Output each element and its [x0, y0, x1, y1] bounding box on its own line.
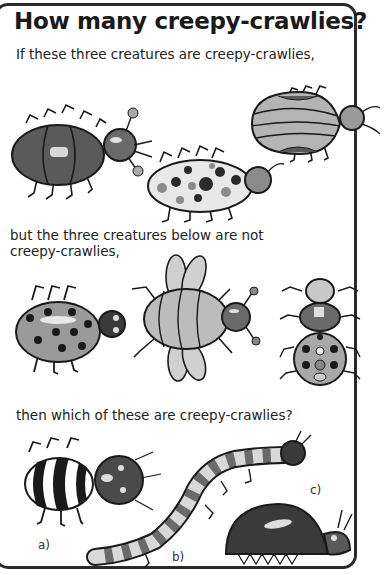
intro-text: If these three creatures are creepy-craw…: [16, 46, 315, 63]
not-text-line2: creepy-crawlies,: [10, 243, 120, 260]
creature-striped-beetle: [8, 95, 158, 205]
option-b-label[interactable]: b): [172, 550, 184, 564]
creature-stripe-shell-bug: [248, 82, 386, 172]
question-text: then which of these are creepy-crawlies?: [16, 407, 293, 424]
option-c-label[interactable]: c): [310, 483, 321, 497]
creature-winged-bee: [124, 255, 264, 385]
option-c-creature[interactable]: [218, 490, 358, 570]
creature-spotted-round-bug: [12, 276, 122, 381]
option-a-label[interactable]: a): [38, 538, 50, 552]
page-title: How many creepy-crawlies?: [14, 8, 367, 34]
creature-segmented-bug: [280, 277, 360, 389]
not-text-line1: but the three creatures below are not: [10, 227, 264, 244]
